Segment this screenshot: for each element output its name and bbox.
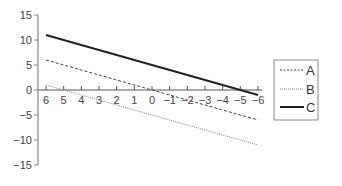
x-tick-label: 5 (61, 94, 67, 106)
legend: A B C (274, 60, 318, 120)
legend-label-b: B (306, 82, 315, 97)
x-tick-label: 1 (131, 94, 137, 106)
y-tick-label: 15 (20, 9, 32, 21)
legend-label-c: C (306, 100, 315, 115)
x-tick-label: 6 (43, 94, 49, 106)
y-tick-label: 5 (26, 59, 32, 71)
x-tick-label: −4 (216, 94, 229, 106)
y-tick-label: −10 (13, 134, 32, 146)
y-tick-label: −15 (13, 159, 32, 171)
line-chart: 151050−5−10−15 6543210−1−2−3−4−5−6 A B C (0, 0, 342, 186)
x-tick-label: −5 (234, 94, 247, 106)
y-tick-label: 0 (26, 84, 32, 96)
legend-label-a: A (306, 63, 315, 78)
x-tick-label: 0 (149, 94, 155, 106)
y-tick-label: −5 (19, 109, 32, 121)
x-tick-label: 2 (114, 94, 120, 106)
x-tick-label: 4 (78, 94, 84, 106)
y-tick-label: 10 (20, 34, 32, 46)
x-tick-label: −6 (252, 94, 265, 106)
y-axis-ticks: 151050−5−10−15 (13, 9, 38, 171)
x-tick-label: 3 (96, 94, 102, 106)
x-axis-ticks: 6543210−1−2−3−4−5−6 (43, 86, 264, 106)
